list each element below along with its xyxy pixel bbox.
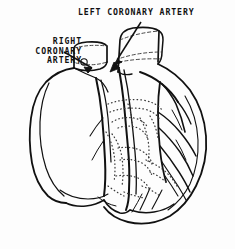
label-right-coronary-artery: RIGHT CORONARY ARTERY	[2, 37, 82, 66]
label-left-coronary-artery: LEFT CORONARY ARTERY	[78, 8, 195, 18]
label-left-coronary-line-1: LEFT CORONARY ARTERY	[78, 8, 195, 18]
label-right-coronary-line-3: ARTERY	[2, 56, 82, 66]
coronary-artery-diagram: LEFT CORONARY ARTERY RIGHT CORONARY ARTE…	[0, 0, 235, 249]
